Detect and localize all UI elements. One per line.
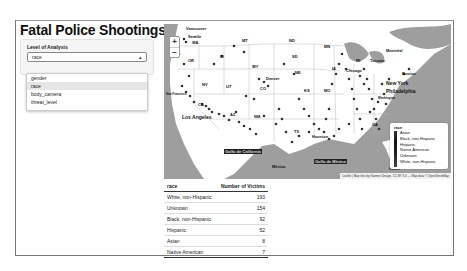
chevron-up-icon: ▴: [139, 54, 142, 60]
map-label-co: CO: [260, 86, 266, 91]
map-label-nm: NM: [254, 114, 260, 119]
map-label-ca: CA: [198, 102, 204, 107]
map-label-new-york: New York: [386, 80, 408, 86]
row-value: 92: [215, 216, 268, 222]
row-label: Unknown: [164, 205, 215, 211]
map-label-boston: Boston: [402, 71, 416, 76]
map-label-chicago: Chicago: [346, 68, 362, 73]
map-label-or: OR: [188, 58, 194, 63]
header-number-of-victims: Number of Victims: [215, 183, 268, 189]
map-label-ut: UT: [226, 84, 231, 89]
map-label-vancouver: Vancouver: [186, 26, 206, 31]
map-legend: race Asian Black, non-Hispanic Hispanic …: [390, 123, 448, 169]
map-label-tx: TX: [294, 129, 299, 134]
level-of-analysis-label: Level of Analysis: [27, 44, 68, 50]
row-value: 52: [215, 227, 268, 233]
dropdown-option-threat-level[interactable]: threat_level: [27, 98, 147, 106]
map-label-denver: Denver: [266, 76, 280, 81]
map-label-montreal: Montréal: [386, 48, 403, 53]
map-label-id: ID: [220, 54, 224, 59]
map-label-nv: NV: [202, 82, 208, 87]
map-label-houston: Houston: [312, 134, 328, 139]
legend-item: Black, non-Hispanic: [400, 136, 436, 142]
zoom-in-button[interactable]: +: [170, 37, 179, 47]
dropdown-option-race[interactable]: race: [27, 82, 147, 90]
table-row: Unknown 154: [164, 203, 268, 214]
map-label-mi: MI: [356, 58, 360, 63]
row-label: Native American: [164, 249, 215, 255]
select-dropdown-menu: gender race body_camera threat_level: [26, 73, 148, 111]
map-label-ga: GA: [372, 122, 378, 127]
table-row: Native American 7: [164, 247, 268, 258]
dropdown-option-body-camera[interactable]: body_camera: [27, 90, 147, 98]
row-label: Hispanic: [164, 227, 215, 233]
map-label-wa: WA: [192, 40, 198, 45]
map-label-ks: KS: [304, 88, 310, 93]
map-label-toronto: Toronto: [370, 58, 385, 63]
row-label: White, non-Hispanic: [164, 194, 215, 200]
map-label-gulf-california: Golfo de California: [224, 149, 262, 154]
row-value: 154: [215, 205, 268, 211]
table-row: Asian 8: [164, 236, 268, 247]
legend-item: White, non-Hispanic: [400, 159, 436, 165]
row-value: 8: [215, 238, 268, 244]
leaflet-map[interactable]: + − Vancouver Seattle WA OR MT ID WY ND …: [164, 24, 451, 179]
zoom-out-button[interactable]: −: [170, 47, 179, 58]
sidebar-panel: Level of Analysis race ▴: [20, 39, 154, 75]
dropdown-option-gender[interactable]: gender: [27, 74, 147, 82]
legend-color-bar: [394, 131, 397, 167]
map-label-mexico: México: [272, 164, 286, 169]
header-race: race: [164, 183, 215, 189]
map-label-ia: IA: [332, 66, 336, 71]
table-header: race Number of Victims: [164, 181, 268, 192]
map-label-mt: MT: [242, 38, 248, 43]
map-attribution[interactable]: Leaflet | Map tiles by Stamen Design, CC…: [340, 173, 451, 179]
app-frame: Fatal Police Shootings Level of Analysis…: [15, 20, 454, 256]
map-zoom-control: + −: [169, 36, 180, 58]
map-label-washington: Washington: [378, 96, 395, 100]
map-label-az: AZ: [230, 112, 235, 117]
table-row: White, non-Hispanic 193: [164, 192, 268, 203]
select-value: race: [32, 54, 42, 60]
map-label-sd: SD: [292, 54, 298, 59]
row-label: Black, non-Hispanic: [164, 216, 215, 222]
page-title: Fatal Police Shootings: [20, 22, 166, 38]
map-label-philadelphia: Philadelphia: [386, 88, 415, 94]
map-label-los-angeles: Los Angeles: [182, 114, 212, 120]
map-label-mo: MO: [324, 88, 330, 93]
map-label-nd: ND: [289, 38, 295, 43]
map-label-seattle: Seattle: [188, 34, 201, 39]
level-of-analysis-select[interactable]: race ▴: [27, 52, 147, 62]
map-label-ne: NE: [295, 70, 301, 75]
map-label-san-francisco: San Francisco: [166, 92, 187, 96]
row-value: 193: [215, 194, 268, 200]
table-row: Hispanic 52: [164, 225, 268, 236]
table-row: Black, non-Hispanic 92: [164, 214, 268, 225]
victims-table: race Number of Victims White, non-Hispan…: [164, 181, 268, 258]
map-label-wy: WY: [252, 64, 258, 69]
row-value: 7: [215, 249, 268, 255]
row-label: Asian: [164, 238, 215, 244]
map-label-gulf-mexico: Golfo de México: [314, 159, 347, 164]
map-label-mn: MN: [324, 44, 330, 49]
